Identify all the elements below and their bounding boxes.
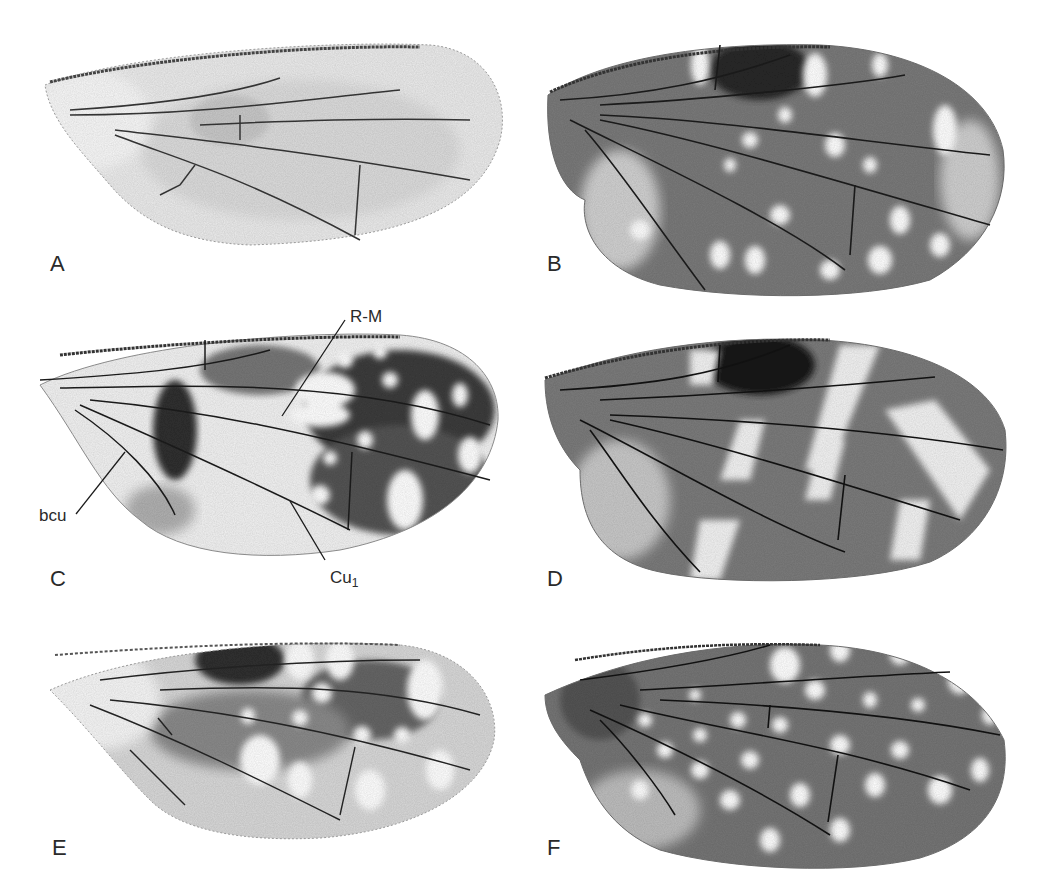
annotation-bcu: bcu [39, 506, 66, 525]
panel-label-e: E [52, 835, 67, 860]
wing-figure: A [0, 0, 1047, 892]
annotation-r-m: R-M [350, 307, 382, 326]
panel-label-b: B [547, 251, 562, 276]
wing-panel-b: B [540, 40, 1010, 305]
wing-panel-f: F [540, 635, 1010, 875]
panel-label-a: A [50, 251, 65, 276]
wing-panel-e: E [40, 635, 505, 860]
annotation-cu1: Cu1 [330, 568, 359, 590]
panel-label-c: C [50, 566, 66, 591]
wing-panel-d: D [540, 330, 1010, 591]
panel-label-d: D [547, 566, 563, 591]
wing-panel-a: A [30, 40, 510, 276]
panel-label-f: F [547, 835, 560, 860]
wing-panel-c: R-M bcu Cu1 C [35, 307, 505, 591]
